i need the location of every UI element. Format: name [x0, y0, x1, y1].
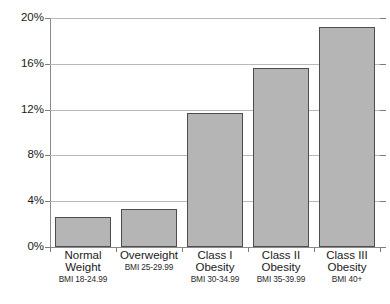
- x-axis-tick-mark: [314, 247, 315, 252]
- category-name-line: Obesity: [182, 262, 248, 274]
- bar: [121, 209, 177, 247]
- x-axis-tick-mark: [116, 247, 117, 252]
- category-bmi-range: BMI 40+: [314, 275, 380, 283]
- x-axis-category-label: OverweightBMI 25-29.99: [116, 250, 182, 272]
- x-axis-category-label: NormalWeightBMI 18-24.99: [50, 250, 116, 283]
- y-axis-tick-mark: [45, 201, 50, 202]
- plot-area: 0%4%8%12%16%20%: [50, 18, 380, 247]
- gridline: [50, 18, 380, 19]
- bar: [187, 113, 243, 247]
- category-bmi-range: BMI 25-29.99: [116, 263, 182, 271]
- x-axis-tick-mark: [248, 247, 249, 252]
- bar-chart: 0%4%8%12%16%20% NormalWeightBMI 18-24.99…: [0, 0, 390, 304]
- y-axis-tick-label: 0%: [0, 241, 44, 253]
- x-axis-category-labels: NormalWeightBMI 18-24.99OverweightBMI 25…: [50, 250, 385, 304]
- y-axis-tick-label: 16%: [0, 58, 44, 70]
- y-axis-tick-label: 12%: [0, 104, 44, 116]
- bar: [55, 217, 111, 247]
- y-axis-tick-mark-right: [380, 201, 386, 202]
- y-axis-tick-mark-right: [380, 64, 386, 65]
- category-bmi-range: BMI 30-34.99: [182, 275, 248, 283]
- category-name-line: Class III: [314, 250, 380, 262]
- y-axis-tick-mark-right: [380, 155, 386, 156]
- category-name-line: Class II: [248, 250, 314, 262]
- x-axis-tick-mark: [50, 247, 51, 252]
- x-axis-category-label: Class IIIObesityBMI 40+: [314, 250, 380, 283]
- y-axis-tick-label: 8%: [0, 149, 44, 161]
- y-axis-tick-mark: [45, 18, 50, 19]
- y-axis-tick-mark: [45, 64, 50, 65]
- x-axis-category-label: Class IIObesityBMI 35-39.99: [248, 250, 314, 283]
- x-axis-tick-mark: [182, 247, 183, 252]
- category-name-line: Obesity: [314, 262, 380, 274]
- bar: [319, 27, 375, 247]
- x-axis-tick-mark: [380, 247, 381, 252]
- category-bmi-range: BMI 35-39.99: [248, 275, 314, 283]
- category-name-line: Weight: [50, 262, 116, 274]
- y-axis-tick-mark-right: [380, 110, 386, 111]
- category-name-line: Normal: [50, 250, 116, 262]
- y-axis-tick-mark: [45, 110, 50, 111]
- y-axis-tick-mark: [45, 155, 50, 156]
- category-name-line: Obesity: [248, 262, 314, 274]
- y-axis-tick-label: 4%: [0, 195, 44, 207]
- gridline: [50, 247, 380, 248]
- category-name-line: Overweight: [116, 250, 182, 262]
- bar: [253, 68, 309, 247]
- y-axis-tick-mark-right: [380, 18, 386, 19]
- x-axis-category-label: Class IObesityBMI 30-34.99: [182, 250, 248, 283]
- y-axis-tick-label: 20%: [0, 12, 44, 24]
- category-name-line: Class I: [182, 250, 248, 262]
- category-bmi-range: BMI 18-24.99: [50, 275, 116, 283]
